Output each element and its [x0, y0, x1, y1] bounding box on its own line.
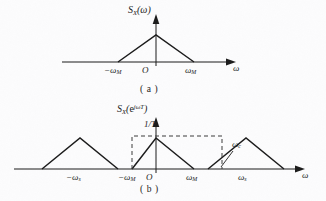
panel-b-tick-neg-omega-s: −ωs: [66, 173, 81, 183]
panel-b-replica-left: [42, 138, 118, 169]
panel-b-amplitude-label: 1/T: [144, 120, 156, 129]
panel-a-plot: [0, 0, 326, 100]
panel-b-sampled-spectrum: SX(ejωT) 1/T −ωs −ωM O ωM ωs ωc ω ( b ): [0, 95, 326, 201]
panel-a-tick-neg-omega-m: −ωM: [104, 66, 121, 76]
panel-b-caption: ( b ): [140, 184, 159, 194]
figure-container: SX(ω) −ωM O ωM ω ( a ): [0, 0, 326, 201]
panel-b-replica-right: [208, 138, 284, 169]
panel-b-function-label: SX(ejωT): [117, 104, 147, 115]
panel-a-function-label: SX(ω): [128, 5, 151, 16]
panel-b-tick-omega-m: ωM: [186, 173, 197, 183]
panel-b-tick-neg-omega-m: −ωM: [118, 173, 135, 183]
panel-b-plot: [0, 95, 326, 201]
panel-a-amplitude-axis: [153, 14, 160, 66]
panel-a-tick-omega-m: ωM: [185, 66, 196, 76]
panel-b-cutoff-label: ωc: [232, 140, 241, 150]
panel-a-omega-axis: [62, 59, 236, 66]
panel-a-origin-label: O: [142, 66, 149, 75]
panel-a-axis-label-omega: ω: [233, 64, 239, 73]
panel-a-caption: ( a ): [140, 84, 158, 94]
panel-b-origin-label: O: [146, 173, 153, 182]
panel-b-axis-label-omega: ω: [302, 171, 308, 180]
panel-a-continuous-spectrum: SX(ω) −ωM O ωM ω ( a ): [0, 0, 326, 100]
panel-b-tick-omega-s: ωs: [238, 173, 247, 183]
panel-b-baseband-triangle: [132, 138, 194, 169]
panel-b-omega-axis: [14, 166, 305, 173]
